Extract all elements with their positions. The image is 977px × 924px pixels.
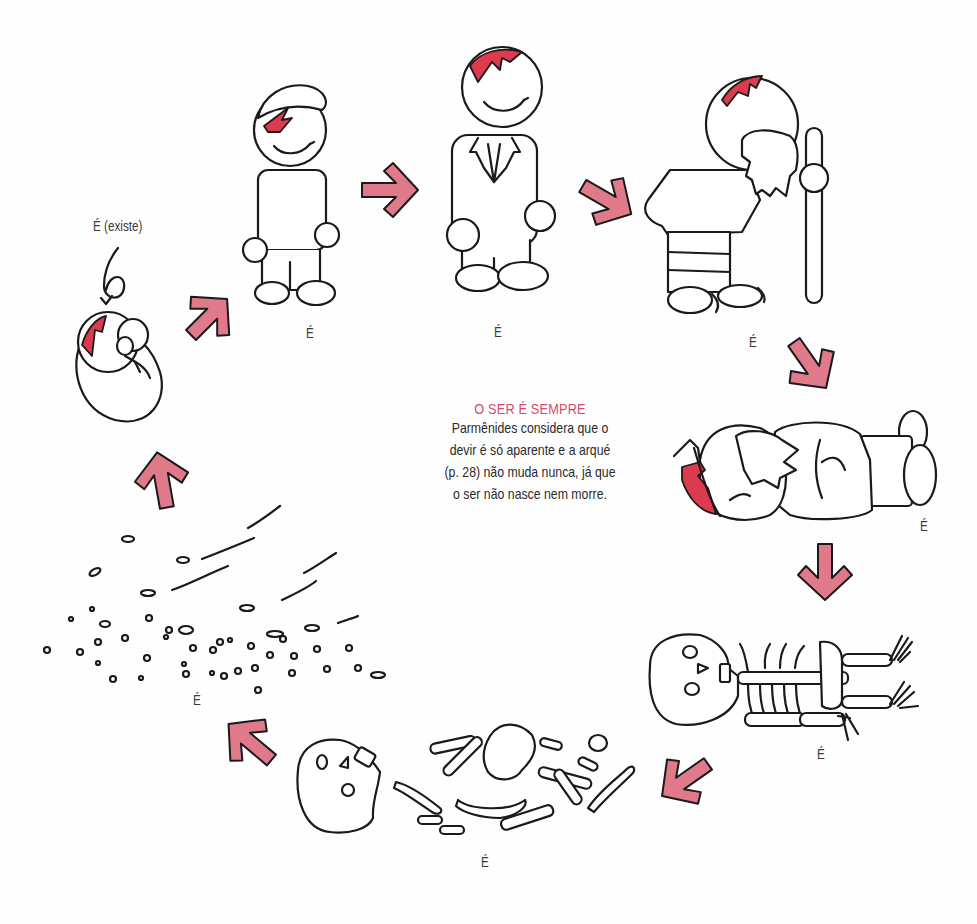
label-adult: É bbox=[494, 323, 502, 340]
arrow-right bbox=[362, 163, 418, 217]
label-dust: É bbox=[193, 691, 201, 708]
arrow-down bbox=[798, 544, 852, 600]
label-elder: É bbox=[749, 333, 757, 350]
arrow-up-left bbox=[211, 703, 289, 780]
label-baby: É (existe) bbox=[93, 217, 142, 234]
baby-figure bbox=[76, 248, 162, 421]
arrow-down-right-2 bbox=[772, 327, 848, 404]
arrow-up bbox=[131, 448, 194, 513]
arrow-down-right-1 bbox=[569, 163, 644, 238]
dead-body-figure bbox=[674, 411, 936, 520]
caption-line-1: Parmênides considera que o bbox=[432, 417, 629, 439]
caption-line-4: o ser não nasce nem morre. bbox=[432, 483, 629, 505]
dust-figure bbox=[44, 506, 385, 693]
label-dead-body: É bbox=[920, 517, 928, 534]
label-skeleton: É bbox=[817, 745, 825, 762]
label-scattered-bones: É bbox=[481, 853, 489, 870]
arrow-down-left bbox=[647, 742, 724, 818]
central-caption: O SER É SEMPRE Parmênides considera que … bbox=[410, 400, 650, 505]
elder-figure bbox=[645, 76, 828, 313]
label-child: É bbox=[306, 324, 314, 341]
adult-figure bbox=[447, 47, 555, 291]
scattered-bones-figure bbox=[297, 725, 634, 834]
child-figure bbox=[243, 85, 339, 305]
skeleton-figure bbox=[650, 634, 918, 740]
caption-title: O SER É SEMPRE bbox=[428, 400, 632, 417]
caption-line-2: devir é só aparente e a arqué bbox=[432, 439, 629, 461]
caption-line-3: (p. 28) não muda nunca, já que bbox=[432, 461, 629, 483]
arrow-up-right bbox=[172, 280, 246, 354]
